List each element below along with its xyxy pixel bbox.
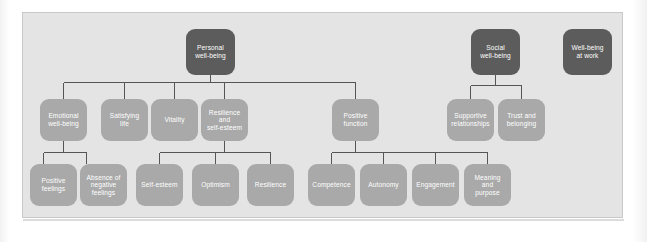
node-engagement[interactable]: Engagement [412,164,459,206]
node-label-engagement: Engagement [416,181,454,189]
node-vitality[interactable]: Vitality [151,99,198,141]
node-label-trust-and-belonging: Trust and belonging [507,112,537,127]
node-label-personal-well-being: Personal well-being [195,44,226,59]
node-resilience[interactable]: Resilience [247,164,294,206]
node-label-self-esteem: Self-esteem [141,181,177,189]
node-label-optimism: Optimism [201,181,230,189]
node-well-being-at-work[interactable]: Well-being at work [563,29,612,75]
node-absence-of-negative-feelings[interactable]: Absence of negative feelings [80,164,127,206]
panel-shadow [23,219,624,221]
node-label-positive-feelings: Positive feelings [42,177,66,192]
node-label-supportive-relationships: Supportive relationships [451,112,489,127]
node-label-meaning-and-purpose: Meaning and purpose [475,174,501,197]
node-label-competence: Competence [312,181,350,189]
page-edge-left [0,0,10,242]
node-satisfying-life[interactable]: Satisfying life [101,99,148,141]
node-label-satisfying-life: Satisfying life [110,112,140,127]
node-label-resilience: Resilience [255,181,286,189]
node-meaning-and-purpose[interactable]: Meaning and purpose [464,164,511,206]
node-autonomy[interactable]: Autonomy [360,164,407,206]
node-label-autonomy: Autonomy [368,181,399,189]
node-resilience-and-self-esteem[interactable]: Resilience and self-esteem [201,99,248,141]
node-positive-function[interactable]: Positive function [332,99,379,141]
node-label-emotional-well-being: Emotional well-being [48,112,79,127]
node-optimism[interactable]: Optimism [192,164,239,206]
node-label-social-well-being: Social well-being [480,44,511,59]
node-label-vitality: Vitality [164,116,184,124]
node-self-esteem[interactable]: Self-esteem [136,164,183,206]
node-label-well-being-at-work: Well-being at work [571,44,603,59]
node-supportive-relationships[interactable]: Supportive relationships [447,99,494,141]
node-label-absence-of-negative-feelings: Absence of negative feelings [87,174,121,197]
node-positive-feelings[interactable]: Positive feelings [30,164,77,206]
node-emotional-well-being[interactable]: Emotional well-being [40,99,87,141]
node-social-well-being[interactable]: Social well-being [471,29,520,75]
node-personal-well-being[interactable]: Personal well-being [186,29,235,75]
node-trust-and-belonging[interactable]: Trust and belonging [498,99,545,141]
page-edge-right [633,0,647,242]
node-competence[interactable]: Competence [308,164,355,206]
node-label-positive-function: Positive function [344,112,368,127]
node-label-resilience-and-self-esteem: Resilience and self-esteem [207,109,242,132]
diagram-root: Personal well-being Social well-being We… [0,0,647,242]
